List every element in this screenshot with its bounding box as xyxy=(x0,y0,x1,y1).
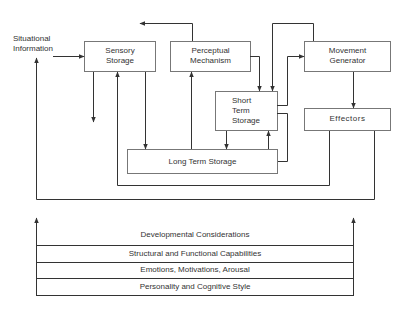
short-term-storage-label: Short Term Storage xyxy=(232,96,260,126)
layer-structural-functional: Structural and Functional Capabilities xyxy=(36,249,354,259)
layer-emotions-motivations: Emotions, Motivations, Arousal xyxy=(36,265,354,275)
layer-personality-cognitive: Personality and Cognitive Style xyxy=(36,282,354,292)
sensory-storage-label: Sensory Storage xyxy=(84,46,156,66)
perceptual-mechanism-label: Perceptual Mechanism xyxy=(170,46,251,66)
long-term-storage-label: Long Term Storage xyxy=(127,157,278,167)
movement-generator-label: Movement Generator xyxy=(304,46,391,66)
situational-information-label: Situational Information xyxy=(13,34,53,54)
effectors-label: Effectors xyxy=(304,114,391,124)
layer-developmental: Developmental Considerations xyxy=(36,230,354,240)
information-processing-diagram: Situational Information Sensory Storage … xyxy=(0,0,410,309)
